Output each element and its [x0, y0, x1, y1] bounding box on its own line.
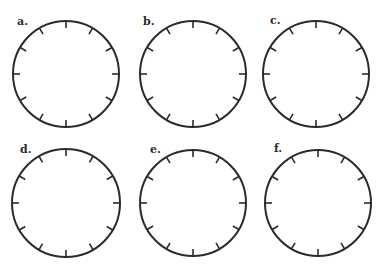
clock-rim [265, 150, 371, 256]
hour-tick [39, 244, 43, 250]
hour-tick [216, 114, 220, 120]
blank-clock-face-icon [8, 145, 124, 261]
hour-tick [106, 48, 112, 52]
hour-tick [290, 28, 294, 34]
hour-tick [39, 156, 43, 162]
hour-tick [19, 227, 25, 231]
blank-clock-face-icon [136, 146, 250, 260]
hour-tick [90, 156, 94, 162]
hour-tick [20, 48, 26, 52]
clock-rim [12, 149, 120, 257]
hour-tick [89, 28, 93, 34]
hour-tick [341, 243, 345, 249]
hour-tick [89, 114, 93, 120]
hour-tick [356, 48, 362, 52]
hour-tick [356, 97, 362, 101]
hour-tick [167, 243, 171, 249]
hour-tick [147, 48, 153, 52]
hour-tick [358, 177, 364, 181]
hour-tick [270, 97, 276, 101]
hour-tick [40, 114, 44, 120]
clock-rim [140, 150, 246, 256]
hour-tick [40, 28, 44, 34]
hour-tick [270, 48, 276, 52]
hour-tick [339, 28, 343, 34]
hour-tick [339, 114, 343, 120]
hour-tick [233, 226, 239, 230]
hour-tick [106, 97, 112, 101]
hour-tick [216, 243, 220, 249]
hour-tick [107, 176, 113, 180]
hour-tick [233, 48, 239, 52]
blank-clock-face-icon [259, 17, 373, 131]
hour-tick [167, 114, 171, 120]
hour-tick [107, 227, 113, 231]
hour-tick [147, 226, 153, 230]
hour-tick [341, 157, 345, 163]
hour-tick [358, 226, 364, 230]
blank-clock-face-icon [136, 17, 250, 131]
hour-tick [20, 97, 26, 101]
hour-tick [19, 176, 25, 180]
blank-clock-face-icon [9, 17, 123, 131]
clock-rim [13, 21, 119, 127]
hour-tick [290, 114, 294, 120]
hour-tick [216, 28, 220, 34]
hour-tick [216, 157, 220, 163]
clock-rim [140, 21, 246, 127]
hour-tick [272, 177, 278, 181]
hour-tick [272, 226, 278, 230]
hour-tick [292, 157, 296, 163]
hour-tick [90, 244, 94, 250]
hour-tick [292, 243, 296, 249]
clock-rim [263, 21, 369, 127]
hour-tick [167, 28, 171, 34]
hour-tick [233, 97, 239, 101]
hour-tick [147, 97, 153, 101]
blank-clock-face-icon [261, 146, 375, 260]
hour-tick [167, 157, 171, 163]
hour-tick [233, 177, 239, 181]
hour-tick [147, 177, 153, 181]
